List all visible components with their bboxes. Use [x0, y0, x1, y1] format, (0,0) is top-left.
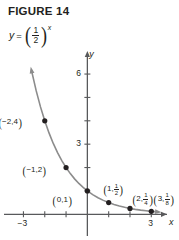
- label-y-fraction: 18: [165, 192, 170, 206]
- label-y-denominator: 4: [144, 200, 147, 206]
- point-label-1: (−1, 2): [22, 164, 47, 177]
- equation-equals-sign: =: [16, 30, 22, 41]
- axes-group: [4, 51, 167, 236]
- equation-base-group: ( 1 2 ) x: [24, 23, 52, 47]
- curve-arrowhead-top: [30, 67, 35, 74]
- y-tick-label-6: 6: [76, 68, 81, 78]
- data-point-5: [149, 209, 154, 214]
- left-paren-glyph: (: [25, 23, 31, 47]
- label-y-value: 1: [63, 196, 67, 204]
- y-tick-label-3: 3: [76, 138, 81, 148]
- data-point-0: [42, 118, 47, 123]
- label-left-paren: (: [154, 193, 157, 206]
- point-label-4: (2, 14): [132, 192, 153, 206]
- data-point-3: [106, 200, 111, 205]
- equation-variable: y: [9, 29, 14, 41]
- label-right-paren: ): [149, 193, 152, 206]
- exponential-curve: [32, 71, 158, 212]
- label-left-paren: (: [0, 116, 2, 129]
- y-axis-label: y: [89, 49, 94, 59]
- label-y-value: 4: [13, 118, 17, 126]
- figure-title: FIGURE 14: [8, 5, 69, 17]
- label-right-paren: ): [18, 116, 21, 129]
- equation-base-numerator: 1: [33, 26, 38, 35]
- label-x-value: −2: [2, 118, 11, 126]
- label-left-paren: (: [22, 164, 25, 177]
- label-left-paren: (: [132, 193, 135, 206]
- right-paren-glyph: ): [41, 23, 47, 47]
- label-y-fraction: 12: [114, 183, 119, 197]
- x-tick-label-neg3: −3: [17, 218, 27, 228]
- equation-base-fraction: 1 2: [32, 26, 40, 45]
- label-right-paren: ): [120, 183, 123, 196]
- figure-container: FIGURE 14 y = ( 1 2 ) x y x 6 3 −3 3 (−2…: [0, 0, 179, 240]
- data-point-2: [85, 188, 90, 193]
- label-right-paren: ): [68, 194, 71, 207]
- point-label-2: (0, 1): [52, 194, 72, 207]
- data-point-1: [63, 165, 68, 170]
- label-y-fraction: 14: [143, 192, 148, 206]
- equation-exponent: x: [48, 24, 52, 31]
- plot-area: y x 6 3 −3 3 (−2, 4)(−1, 2)(0, 1)(1, 12)…: [0, 46, 179, 240]
- label-right-paren: ): [170, 193, 173, 206]
- coordinate-plot-svg: [0, 46, 179, 240]
- label-y-denominator: 2: [115, 190, 118, 196]
- label-y-numerator: 1: [115, 183, 118, 189]
- point-label-0: (−2, 4): [0, 116, 22, 129]
- equation-base-denominator: 2: [33, 36, 38, 45]
- label-y-denominator: 8: [165, 200, 168, 206]
- x-tick-label-3: 3: [148, 218, 153, 228]
- label-y-numerator: 1: [165, 192, 168, 198]
- label-left-paren: (: [53, 194, 56, 207]
- x-axis-arrowhead: [161, 212, 167, 217]
- label-right-paren: ): [43, 164, 46, 177]
- point-label-5: (3, 18): [153, 192, 174, 206]
- curve-arrowhead-right: [155, 209, 162, 214]
- label-x-value: −1: [26, 166, 35, 174]
- label-left-paren: (: [103, 183, 106, 196]
- point-label-3: (1, 12): [103, 183, 124, 197]
- x-axis-label: x: [169, 217, 174, 227]
- label-y-numerator: 1: [144, 192, 147, 198]
